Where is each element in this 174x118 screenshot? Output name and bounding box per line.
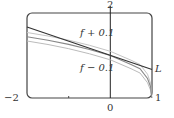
plot-frame xyxy=(27,13,152,98)
x-tick-label-1: 1 xyxy=(155,93,161,103)
annotation-f-plus: f + 0.1 xyxy=(80,28,114,38)
x-tick-label-neg2: −2 xyxy=(4,93,19,103)
y-tick-label-2: 2 xyxy=(107,0,113,10)
annotation-L: L xyxy=(155,64,162,74)
annotation-f-minus: f − 0.1 xyxy=(80,63,114,73)
chart-plot xyxy=(0,0,174,118)
x-tick-label-0: 0 xyxy=(107,103,113,113)
